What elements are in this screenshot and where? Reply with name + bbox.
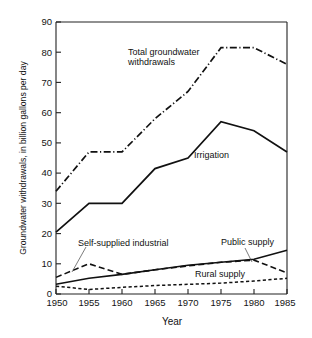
xtick-label-1980: 1980 [243,297,264,308]
x-axis-title: Year [162,316,183,327]
total-groundwater-withdrawals-label-line1: Total groundwater [128,47,200,57]
ytick-label-30: 30 [41,198,52,209]
ytick-label-70: 70 [41,77,52,88]
total-groundwater-withdrawals-label-line2: withdrawals [127,57,176,67]
groundwater-withdrawals-line-chart: 0 10 20 30 40 50 60 70 80 90 1950 1955 1… [0,0,312,338]
self-supplied-industrial-label: Self-supplied industrial [78,238,169,248]
xtick-label-1975: 1975 [210,297,231,308]
public-supply-label: Public supply [221,237,275,247]
xtick-label-1950: 1950 [46,297,67,308]
ytick-label-40: 40 [41,167,52,178]
xtick-label-1960: 1960 [111,297,132,308]
xtick-label-1985: 1985 [274,297,295,308]
xtick-label-1970: 1970 [177,297,198,308]
y-axis-title: Groundwater withdrawals, in billion gall… [18,61,28,255]
y-axis-ticks [56,22,61,294]
x-axis-tick-labels: 1950 1955 1960 1965 1970 1975 1980 1985 [46,297,295,308]
irrigation-label: Irrigation [194,150,229,160]
ytick-label-10: 10 [41,258,52,269]
ytick-label-90: 90 [41,16,52,27]
ytick-label-60: 60 [41,107,52,118]
ytick-label-50: 50 [41,137,52,148]
self-supplied-industrial-leader [72,247,86,272]
xtick-label-1955: 1955 [78,297,99,308]
series-public-supply [56,250,287,284]
series-rural-supply [56,278,287,289]
annotation-labels: Total groundwater withdrawals Irrigation… [78,47,275,279]
series-group [56,48,287,290]
xtick-label-1965: 1965 [144,297,165,308]
ytick-label-20: 20 [41,228,52,239]
ytick-label-80: 80 [41,47,52,58]
chart-figure: 0 10 20 30 40 50 60 70 80 90 1950 1955 1… [0,0,312,338]
series-irrigation [56,122,287,232]
series-self-supplied-industrial [56,260,287,277]
y-axis-tick-labels: 0 10 20 30 40 50 60 70 80 90 [41,16,52,299]
rural-supply-label: Rural supply [195,269,246,279]
series-total-groundwater-withdrawals [56,48,287,192]
